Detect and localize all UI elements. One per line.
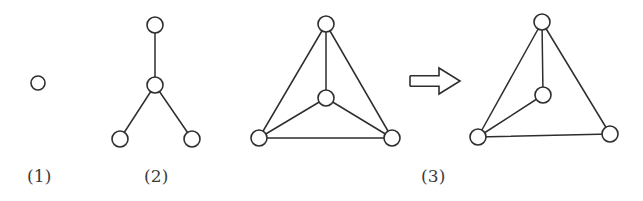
graph-edge [542,22,543,95]
graph-node [470,129,486,145]
graph-edge [259,98,326,138]
graph-node [112,131,128,147]
graph-edge [326,24,392,138]
graph-node [535,87,551,103]
graph-node [318,90,334,106]
graph-edge [478,95,543,137]
graph-node [31,76,45,90]
graph-edge [155,85,192,139]
graph-node [602,126,618,142]
graph-node [384,130,400,146]
panel-1-caption: (1) [27,168,52,185]
graph-node [534,14,550,30]
graph-node [251,130,267,146]
graph-node [147,17,163,33]
graph-node [147,77,163,93]
graph-edge [542,22,610,134]
edges-layer [120,22,610,139]
implies-arrow-outline [410,68,460,94]
graph-figure: (1) (2) (3) [0,0,643,201]
graph-edge [478,22,542,137]
graph-edge [326,98,392,138]
nodes-layer [31,14,618,147]
panel-3-caption: (3) [421,168,446,185]
graph-edge [120,85,155,139]
implies-arrow-icon [410,68,460,94]
panel-2-caption: (2) [144,168,169,185]
graph-edge [259,24,326,138]
graph-node [184,131,200,147]
graph-edge [478,134,610,137]
figure-canvas [0,0,643,201]
graph-node [318,16,334,32]
